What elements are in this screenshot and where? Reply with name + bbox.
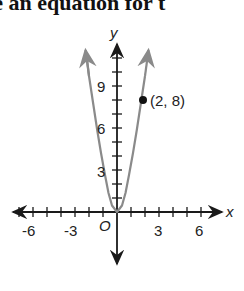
x-tick-label-neg6: -6 [22, 222, 35, 239]
x-axis-label: x [225, 203, 234, 220]
point-2-8 [139, 96, 147, 104]
parabola-chart: (2, 8) y x O -6 -3 3 6 3 6 9 [0, 0, 244, 291]
y-tick-label-3: 3 [97, 163, 105, 180]
origin-label: O [99, 217, 111, 234]
x-tick-label-neg3: -3 [64, 222, 77, 239]
x-tick-label-3: 3 [154, 222, 162, 239]
x-tick-label-6: 6 [195, 222, 203, 239]
y-axis [112, 44, 122, 264]
point-label: (2, 8) [150, 92, 185, 109]
y-tick-label-9: 9 [97, 78, 105, 95]
y-tick-label-6: 6 [97, 120, 105, 137]
y-axis-label: y [109, 24, 119, 41]
